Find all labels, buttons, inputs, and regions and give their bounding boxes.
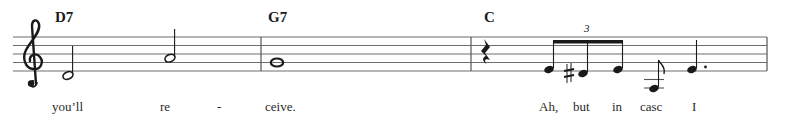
staff-lines xyxy=(13,37,767,71)
note-a4-half xyxy=(164,29,176,63)
chord-symbol-c: C xyxy=(484,9,495,26)
note-d4-half xyxy=(62,46,74,81)
chord-symbol-g7: G7 xyxy=(268,9,287,26)
triplet-group xyxy=(543,40,624,83)
lyric-syllable: but xyxy=(573,99,590,115)
sharp-icon xyxy=(564,63,574,83)
lyric-syllable: you’ll xyxy=(52,99,83,115)
chord-symbol-d7: D7 xyxy=(55,9,73,26)
lyric-syllable: re xyxy=(160,99,170,115)
quarter-rest-icon xyxy=(481,39,490,64)
lyric-hyphen: - xyxy=(217,99,221,115)
lyric-syllable: Ah, xyxy=(539,99,558,115)
lyric-syllable: in xyxy=(612,99,622,115)
music-staff xyxy=(0,0,809,121)
lyric-syllable: casc xyxy=(640,99,662,115)
note-g3-eighth xyxy=(644,60,664,94)
lyric-syllable: ceive. xyxy=(265,99,296,115)
triplet-number: 3 xyxy=(584,22,590,34)
lyric-syllable: I xyxy=(692,99,696,115)
